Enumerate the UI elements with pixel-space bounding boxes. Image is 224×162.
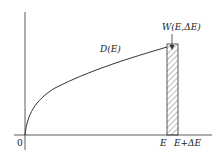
bar-label: W(E,ΔE) (162, 22, 201, 32)
hatched-bar (167, 44, 178, 135)
origin-label: 0 (17, 138, 23, 148)
x-label-e-plus-delta: E+ΔE (173, 138, 202, 148)
curve-label: D(E) (99, 44, 121, 54)
dos-diagram: D(E) W(E,ΔE) 0 E E+ΔE (0, 0, 224, 162)
dos-curve (25, 47, 167, 135)
x-label-e: E (159, 138, 167, 148)
